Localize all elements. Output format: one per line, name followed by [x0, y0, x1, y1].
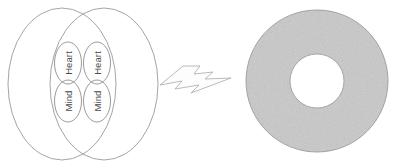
lightning-bolt-arrow [160, 66, 231, 93]
lobe-heart-left: Heart [55, 42, 82, 84]
lobe-heart-left-label: Heart [63, 51, 74, 75]
lightning-bolt-shape [160, 66, 231, 93]
diagram-canvas: Heart Heart Mind Mind [0, 0, 396, 168]
lobe-mind-right-label: Mind [92, 91, 103, 112]
annulus-inner-edge [290, 54, 344, 108]
gray-annulus-group [244, 8, 390, 154]
lobe-heart-right: Heart [84, 42, 111, 84]
lobe-mind-right: Mind [84, 80, 111, 122]
lobe-mind-left-label: Mind [63, 91, 74, 112]
inner-lobes-group: Heart Heart Mind Mind [55, 42, 111, 122]
lobe-heart-right-label: Heart [92, 51, 103, 75]
venn-diagram-group: Heart Heart Mind Mind [8, 8, 158, 160]
lobe-mind-left: Mind [55, 80, 82, 122]
